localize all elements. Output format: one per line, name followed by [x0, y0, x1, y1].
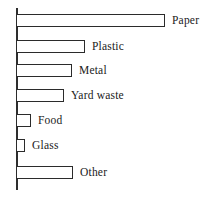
bar-paper — [16, 14, 165, 27]
bar-row: Other — [16, 166, 107, 179]
bar-label: Yard waste — [71, 89, 124, 102]
bar-glass — [16, 139, 25, 152]
bar-row: Food — [16, 114, 62, 127]
bar-other — [16, 166, 73, 179]
bar-row: Glass — [16, 139, 59, 152]
bar-label: Paper — [172, 14, 199, 27]
bar-row: Paper — [16, 14, 199, 27]
bar-label: Plastic — [92, 40, 124, 53]
bar-chart: PaperPlasticMetalYard wasteFoodGlassOthe… — [0, 0, 214, 201]
bar-metal — [16, 64, 72, 77]
bar-yard-waste — [16, 89, 64, 102]
bar-food — [16, 114, 31, 127]
bar-label: Glass — [32, 139, 59, 152]
bar-label: Metal — [79, 64, 107, 77]
bar-row: Metal — [16, 64, 107, 77]
bar-label: Food — [38, 114, 62, 127]
bar-label: Other — [80, 166, 107, 179]
bar-plastic — [16, 40, 85, 53]
bar-row: Plastic — [16, 40, 124, 53]
bar-row: Yard waste — [16, 89, 124, 102]
plot-area: PaperPlasticMetalYard wasteFoodGlassOthe… — [0, 0, 214, 201]
